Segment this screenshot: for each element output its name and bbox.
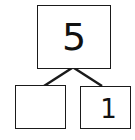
connector-left (44, 68, 72, 86)
part-right-value: 1 (100, 94, 117, 124)
part-box-right: 1 (80, 86, 131, 129)
connector-right (74, 68, 102, 86)
part-box-left[interactable] (15, 85, 66, 129)
whole-value: 5 (62, 15, 86, 59)
whole-box: 5 (37, 5, 111, 69)
